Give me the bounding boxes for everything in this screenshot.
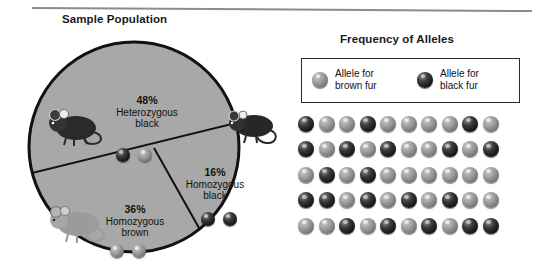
allele-brown-icon (421, 141, 437, 157)
allele-frequency-grid (296, 111, 501, 239)
legend-brown-line2: brown fur (335, 80, 377, 92)
top-divider-rule (32, 7, 532, 12)
allele-black-icon (339, 218, 355, 234)
allele-black-icon (298, 141, 314, 157)
allele-black-icon (442, 141, 458, 157)
figure-root: Sample Population 48% Heterozygous black (0, 0, 539, 266)
allele-brown-icon (319, 141, 335, 157)
allele-black-icon (483, 141, 499, 157)
allele-black-icon (417, 72, 433, 88)
legend-black-line2: black fur (440, 80, 479, 92)
allele-brown-icon (380, 116, 396, 132)
pie-label-line1: Heterozygous (104, 107, 190, 119)
sample-population-title: Sample Population (62, 13, 167, 25)
pie-label-line2: black (174, 190, 256, 202)
allele-black-icon (380, 141, 396, 157)
allele-brown-icon (380, 192, 396, 208)
legend-label-black: Allele for black fur (440, 68, 479, 91)
black-mouse-icon (44, 106, 108, 148)
legend-item-black-allele: Allele for black fur (417, 68, 479, 91)
allele-black-icon (360, 116, 376, 132)
allele-black-icon (319, 167, 335, 183)
pie-allele-pair-heterozygous (116, 148, 152, 162)
allele-brown-icon (339, 116, 355, 132)
allele-black-icon (223, 212, 237, 226)
allele-brown-icon (421, 192, 437, 208)
frequency-of-alleles-title: Frequency of Alleles (340, 33, 454, 45)
pie-allele-pair-homozygous-brown (110, 244, 146, 258)
allele-brown-icon (421, 167, 437, 183)
allele-legend: Allele for brown fur Allele for black fu… (301, 58, 520, 103)
allele-black-icon (298, 192, 314, 208)
allele-brown-icon (360, 218, 376, 234)
allele-black-icon (360, 192, 376, 208)
allele-black-icon (462, 116, 478, 132)
allele-black-icon (339, 141, 355, 157)
allele-brown-icon (319, 116, 335, 132)
allele-brown-icon (319, 218, 335, 234)
allele-black-icon (380, 218, 396, 234)
allele-brown-icon (462, 141, 478, 157)
allele-black-icon (462, 218, 478, 234)
allele-brown-icon (401, 167, 417, 183)
allele-brown-icon (298, 218, 314, 234)
pie-label-percent: 48% (104, 95, 190, 107)
brown-mouse-icon (44, 204, 112, 248)
allele-brown-icon (380, 167, 396, 183)
allele-brown-icon (401, 116, 417, 132)
allele-brown-icon (483, 192, 499, 208)
allele-brown-icon (462, 192, 478, 208)
black-mouse-icon (220, 110, 282, 154)
allele-black-icon (421, 218, 437, 234)
allele-brown-icon (442, 116, 458, 132)
allele-brown-icon (110, 244, 124, 258)
pie-allele-pair-homozygous-black (201, 212, 237, 226)
allele-brown-icon (401, 141, 417, 157)
allele-brown-icon (483, 116, 499, 132)
allele-black-icon (483, 218, 499, 234)
allele-brown-icon (339, 167, 355, 183)
allele-black-icon (360, 167, 376, 183)
allele-brown-icon (312, 72, 328, 88)
allele-brown-icon (483, 167, 499, 183)
pie-label-homozygous-black: 16% Homozygous black (174, 167, 256, 202)
allele-brown-icon (462, 167, 478, 183)
sample-population-pie-chart: 48% Heterozygous black 16% Homozygous bl… (22, 36, 250, 258)
pie-label-line1: Homozygous (174, 179, 256, 191)
allele-brown-icon (442, 218, 458, 234)
allele-brown-icon (421, 116, 437, 132)
allele-black-icon (442, 192, 458, 208)
allele-black-icon (319, 192, 335, 208)
legend-item-brown-allele: Allele for brown fur (312, 68, 377, 91)
allele-black-icon (298, 116, 314, 132)
legend-black-line1: Allele for (440, 68, 479, 80)
pie-label-line2: black (104, 118, 190, 130)
allele-brown-icon (360, 141, 376, 157)
pie-label-heterozygous-black: 48% Heterozygous black (104, 95, 190, 130)
allele-black-icon (401, 192, 417, 208)
legend-brown-line1: Allele for (335, 68, 377, 80)
allele-brown-icon (132, 244, 146, 258)
legend-label-brown: Allele for brown fur (335, 68, 377, 91)
allele-black-icon (116, 148, 130, 162)
allele-brown-icon (138, 148, 152, 162)
allele-brown-icon (339, 192, 355, 208)
allele-brown-icon (298, 167, 314, 183)
allele-black-icon (201, 212, 215, 226)
allele-brown-icon (442, 167, 458, 183)
allele-brown-icon (401, 218, 417, 234)
pie-label-percent: 16% (174, 167, 256, 179)
